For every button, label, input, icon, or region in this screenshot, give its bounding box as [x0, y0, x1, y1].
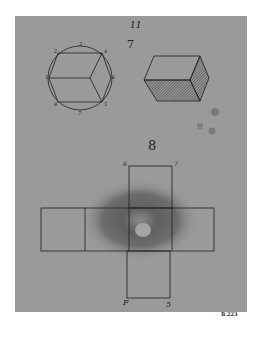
figure-7-number: 7 [127, 38, 134, 51]
net-label-bottom-left: F [123, 298, 129, 307]
plate-illustration [0, 0, 263, 350]
circle-label: 6 [112, 74, 115, 80]
figure-7-prism-diagram [144, 56, 209, 101]
circle-label: 8 [54, 101, 57, 107]
page-number: 11 [130, 20, 141, 30]
circle-label: 4 [104, 48, 107, 54]
circle-label: 7 [78, 110, 81, 116]
circle-label: 5 [104, 101, 107, 107]
figure-8-number: 8 [148, 138, 156, 153]
circle-label: 2 [54, 48, 57, 54]
water-stain [82, 180, 198, 260]
circle-label: 3 [79, 41, 82, 47]
net-label-bottom-right: 5 [166, 300, 171, 309]
circle-label: 1 [45, 74, 48, 80]
net-label-top-left: 6 [123, 160, 127, 167]
library-stamp: B.223 [221, 311, 237, 317]
net-label-top-right: 7 [174, 160, 178, 167]
